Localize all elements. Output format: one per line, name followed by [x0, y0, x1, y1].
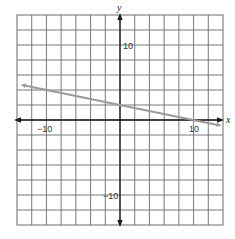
y-axis-up-arrow-icon	[117, 13, 122, 20]
line-left-arrow-icon	[21, 84, 26, 88]
y-tick-label-neg10: −10	[103, 191, 118, 201]
x-tick-label-10: 10	[189, 124, 199, 134]
y-axis-down-arrow-icon	[117, 220, 122, 227]
line-right-arrow-icon	[216, 123, 221, 127]
x-axis-label: x	[225, 114, 231, 125]
y-axis-label: y	[116, 2, 122, 13]
y-tick-label-10: 10	[123, 41, 133, 51]
x-tick-label-neg10: −10	[37, 124, 52, 134]
coordinate-plane: y x −10 10 10 −10	[0, 0, 235, 239]
